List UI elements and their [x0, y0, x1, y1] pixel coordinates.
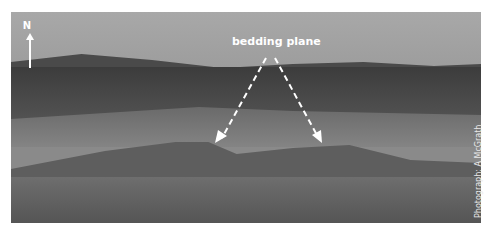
bedding-plane-arrows-icon: [0, 0, 494, 237]
photo-credit: Photograph: A McGrath: [474, 125, 483, 218]
